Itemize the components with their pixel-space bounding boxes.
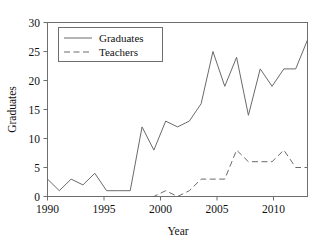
legend-label-graduates: Graduates [99,32,144,44]
x-axis-ticks [48,197,274,201]
y-tick-label-0: 0 [34,191,40,203]
line-chart: 0 5 10 15 20 25 30 1990 1995 2000 2005 2… [0,0,323,249]
y-tick-label-10: 10 [29,133,41,145]
x-axis-title: Year [167,225,188,237]
series-line-graduates [48,40,308,191]
y-axis-title: Graduates [6,86,18,133]
y-tick-label-25: 25 [29,46,41,58]
x-tick-label-1995: 1995 [93,203,116,215]
y-tick-label-20: 20 [29,75,41,87]
y-axis-ticks [44,23,48,197]
chart-figure: 0 5 10 15 20 25 30 1990 1995 2000 2005 2… [0,0,323,249]
x-tick-label-2010: 2010 [262,203,285,215]
x-tick-label-2005: 2005 [206,203,229,215]
x-tick-label-1990: 1990 [36,203,59,215]
y-tick-label-5: 5 [34,162,40,174]
series-line-teachers [48,150,308,196]
x-axis-tick-labels: 1990 1995 2000 2005 2010 [36,203,285,215]
data-series-group [48,40,308,197]
chart-legend: Graduates Teachers [59,28,163,62]
y-tick-label-30: 30 [29,17,41,29]
y-tick-label-15: 15 [29,104,41,116]
x-tick-label-2000: 2000 [149,203,172,215]
legend-label-teachers: Teachers [99,46,138,58]
y-axis-tick-labels: 0 5 10 15 20 25 30 [29,17,41,203]
